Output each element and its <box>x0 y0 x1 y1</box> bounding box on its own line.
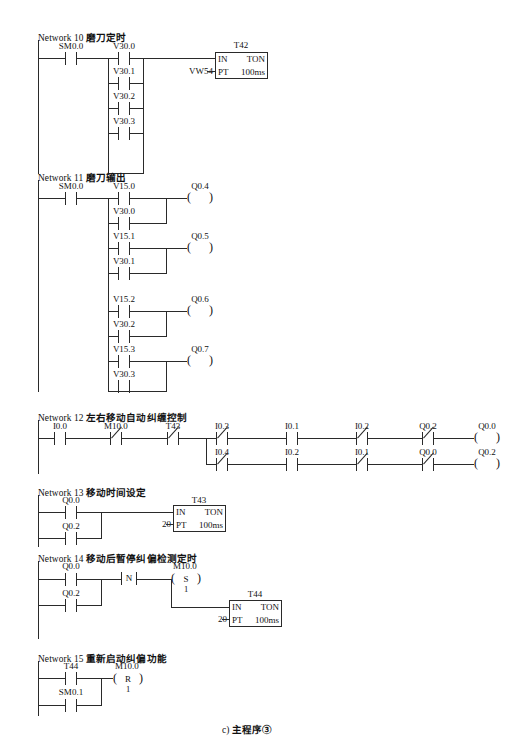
contact-q00-n13[interactable] <box>65 506 77 519</box>
label-v300-n11: V30.0 <box>113 206 135 216</box>
label-q00b-n12: Q0.0 <box>419 447 437 457</box>
timer-box-t42[interactable]: IN TON PT 100ms <box>215 52 268 79</box>
label-v302-n11: V30.2 <box>113 319 135 329</box>
contact-v303-n11[interactable] <box>118 380 130 393</box>
wire-n11-r3coil <box>166 311 187 312</box>
label-q06-n11: Q0.6 <box>191 294 209 304</box>
contact-v301-n10[interactable] <box>118 77 130 90</box>
wire-n13-d <box>77 538 101 539</box>
contact-v301-n11[interactable] <box>118 267 130 280</box>
timer-pt-label-t42: PT <box>218 67 229 77</box>
contact-sm00-n10[interactable] <box>65 52 77 65</box>
wire-n11-r1coil <box>166 198 187 199</box>
contact-v300-n11[interactable] <box>118 217 130 230</box>
coil-q02-n12[interactable]: () <box>474 457 500 471</box>
wire-n14-c <box>38 605 65 606</box>
contact-m100-n12[interactable] <box>110 432 122 445</box>
label-sm00-n10: SM0.0 <box>59 41 83 51</box>
branch-right-rail-n10 <box>143 58 144 174</box>
coil-q00-n12[interactable]: () <box>474 431 500 445</box>
timer-name-t44: T44 <box>248 589 263 599</box>
contact-v153-n11[interactable] <box>118 355 130 368</box>
label-v151-n11: V15.1 <box>113 231 135 241</box>
label-v303-n11: V30.3 <box>113 369 135 379</box>
label-v152-n11: V15.2 <box>113 294 135 304</box>
coil-q06-n11[interactable]: () <box>187 304 213 318</box>
contact-i02b-n12[interactable] <box>286 458 298 471</box>
contact-i04-n12[interactable] <box>216 458 228 471</box>
coil-q07-n11[interactable]: () <box>187 354 213 368</box>
wire-n14-down <box>171 579 172 608</box>
wire-n14-d <box>77 605 101 606</box>
contact-q00b-n12[interactable] <box>422 458 434 471</box>
label-q02-n13: Q0.2 <box>62 521 80 531</box>
label-q04-n11: Q0.4 <box>191 181 209 191</box>
label-q05-n11: Q0.5 <box>191 231 209 241</box>
contact-i01b-n12[interactable] <box>356 458 368 471</box>
contact-i01-n12[interactable] <box>286 432 298 445</box>
contact-negative-transition-n14[interactable]: N <box>121 572 137 585</box>
wire-n12-r1a <box>206 438 216 439</box>
wire-n10-e1 <box>108 108 118 109</box>
contact-v302-n11[interactable] <box>118 330 130 343</box>
label-q00-coil-n12: Q0.0 <box>478 421 496 431</box>
wire-n15-b <box>77 678 113 679</box>
wire-n11-r1b1 <box>108 223 118 224</box>
timer-in-label-t44: IN <box>232 602 242 612</box>
branch-join-n13 <box>101 512 102 539</box>
contact-sm01-n15[interactable] <box>65 699 77 712</box>
network-13-name: 移动时间设定 <box>86 487 147 498</box>
wire-n13-b <box>77 512 173 513</box>
contact-i02-n12[interactable] <box>356 432 368 445</box>
wire-n12-d <box>179 438 206 439</box>
timer-box-t43[interactable]: IN TON PT 100ms <box>173 505 226 532</box>
timer-in-label-t43: IN <box>176 507 186 517</box>
label-i01-n12: I0.1 <box>285 421 299 431</box>
contact-q02-n14[interactable] <box>65 599 77 612</box>
timer-base-label-t43: 100ms <box>199 520 223 530</box>
wire-n12-r2d <box>368 464 422 465</box>
coil-count-n15: 1 <box>126 684 130 694</box>
contact-v152-n11[interactable] <box>118 305 130 318</box>
label-q02-n14: Q0.2 <box>62 588 80 598</box>
contact-i00-n12[interactable] <box>54 432 66 445</box>
branch-join-n11-r3 <box>166 311 167 337</box>
wire-n11-r3b1 <box>108 336 118 337</box>
coil-q05-n11[interactable]: () <box>187 241 213 255</box>
branch-join-n14 <box>101 579 102 606</box>
wire-n11-r3t1 <box>108 311 118 312</box>
wire-n12-b <box>66 438 110 439</box>
timer-mode-label-t44: TON <box>261 602 279 612</box>
label-q00-n14: Q0.0 <box>62 561 80 571</box>
contact-t43-n12[interactable] <box>167 432 179 445</box>
contact-v303-n10[interactable] <box>118 127 130 140</box>
wire-n11-r2b2 <box>130 273 166 274</box>
contact-v300-n10[interactable] <box>118 52 130 65</box>
label-q02-coil-n12: Q0.2 <box>478 447 496 457</box>
contact-q02-n12[interactable] <box>422 432 434 445</box>
contact-q02-n13[interactable] <box>65 532 77 545</box>
coil-q04-n11[interactable]: () <box>187 191 213 205</box>
contact-v150-n11[interactable] <box>118 192 130 205</box>
contact-q00-n14[interactable] <box>65 573 77 586</box>
caption-prefix: c) <box>222 725 229 735</box>
contact-t44-n15[interactable] <box>65 672 77 685</box>
wire-n15-c <box>38 705 65 706</box>
label-t44-n15: T44 <box>64 661 79 671</box>
contact-v302-n10[interactable] <box>118 102 130 115</box>
wire-n12-r2b <box>228 464 286 465</box>
wire-n11-a <box>38 198 65 199</box>
wire-n14-f <box>171 607 229 608</box>
branch-left-rail-n10 <box>108 58 109 174</box>
contact-sm00-n11[interactable] <box>65 192 77 205</box>
wire-n15-d <box>77 705 101 706</box>
timer-box-t44[interactable]: IN TON PT 100ms <box>229 600 282 627</box>
label-i02b-n12: I0.2 <box>285 447 299 457</box>
contact-i03-n12[interactable] <box>216 432 228 445</box>
wire-n11-r3t2 <box>130 311 166 312</box>
timer-name-t42: T42 <box>234 40 249 50</box>
wire-n10-b <box>77 58 118 59</box>
contact-v151-n11[interactable] <box>118 242 130 255</box>
wire-n11-r2coil <box>166 248 187 249</box>
label-v150-n11: V15.0 <box>113 181 135 191</box>
